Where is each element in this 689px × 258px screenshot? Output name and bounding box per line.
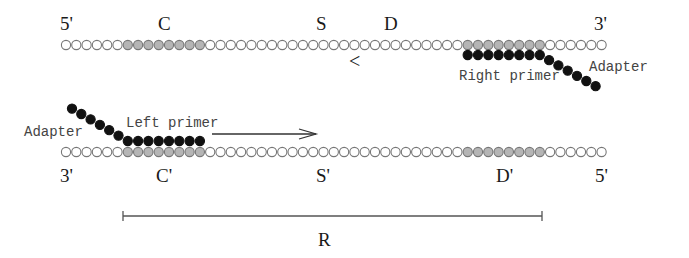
base	[309, 147, 318, 156]
base	[216, 147, 225, 156]
base	[432, 40, 441, 49]
primer-base	[154, 136, 163, 145]
base	[329, 40, 338, 49]
shaded-base	[504, 147, 513, 156]
primer-base	[195, 136, 204, 145]
base	[278, 147, 287, 156]
base	[566, 147, 575, 156]
right-adapter-label: Adapter	[589, 59, 648, 75]
base	[226, 40, 235, 49]
left-adapter-label: Adapter	[24, 124, 83, 140]
base	[278, 40, 287, 49]
base	[226, 147, 235, 156]
base	[267, 40, 276, 49]
base	[267, 147, 276, 156]
bottom-strand-3prime-label: 3'	[60, 165, 73, 186]
shaded-base	[175, 40, 184, 49]
base	[113, 147, 122, 156]
base	[206, 40, 215, 49]
shaded-base	[164, 147, 173, 156]
base	[82, 40, 91, 49]
bottom-strand	[61, 147, 606, 156]
base	[216, 40, 225, 49]
base	[247, 40, 256, 49]
base	[247, 147, 256, 156]
primer-diagram: 5' C S D 3' < Right primer Adapter Left …	[0, 0, 689, 258]
primer-base	[185, 136, 194, 145]
primer-base	[175, 136, 184, 145]
base	[422, 147, 431, 156]
adapter-base	[67, 104, 76, 113]
reverse-direction-marker: <	[349, 50, 360, 72]
adapter-base	[582, 76, 591, 85]
base	[82, 147, 91, 156]
shaded-base	[154, 147, 163, 156]
base	[61, 147, 70, 156]
shaded-base	[515, 147, 524, 156]
base	[443, 147, 452, 156]
primer-base	[494, 50, 503, 59]
base	[237, 40, 246, 49]
adapter-base	[572, 71, 581, 80]
base	[546, 147, 555, 156]
base	[432, 147, 441, 156]
shaded-base	[164, 40, 173, 49]
region-d-label: D	[384, 13, 398, 34]
base	[92, 147, 101, 156]
region-s-prime-label: S'	[316, 165, 330, 186]
base	[350, 40, 359, 49]
shaded-base	[463, 147, 472, 156]
base	[556, 40, 565, 49]
base	[381, 40, 390, 49]
shaded-base	[504, 40, 513, 49]
top-strand-5prime-label: 5'	[60, 13, 73, 34]
base	[546, 40, 555, 49]
base	[288, 40, 297, 49]
base	[412, 147, 421, 156]
base	[597, 40, 606, 49]
region-c-label: C	[158, 13, 171, 34]
range-bar	[123, 211, 542, 221]
base	[319, 40, 328, 49]
region-c-prime-label: C'	[156, 165, 172, 186]
base	[443, 40, 452, 49]
base	[360, 147, 369, 156]
primer-base	[525, 50, 534, 59]
base	[72, 40, 81, 49]
primer-base	[535, 50, 544, 59]
base	[576, 40, 585, 49]
right-primer-label: Right primer	[459, 68, 560, 84]
base	[453, 147, 462, 156]
base	[92, 40, 101, 49]
shaded-base	[123, 147, 132, 156]
shaded-base	[185, 40, 194, 49]
base	[103, 40, 112, 49]
primer-base	[463, 50, 472, 59]
base	[401, 147, 410, 156]
region-d-prime-label: D'	[496, 165, 513, 186]
base	[381, 147, 390, 156]
primer-base	[123, 136, 132, 145]
primer-base	[484, 50, 493, 59]
base	[370, 40, 379, 49]
base	[597, 147, 606, 156]
region-s-label: S	[316, 13, 327, 34]
base	[401, 40, 410, 49]
base	[391, 40, 400, 49]
shaded-base	[195, 40, 204, 49]
shaded-base	[473, 40, 482, 49]
base	[206, 147, 215, 156]
left-primer-label: Left primer	[126, 115, 218, 131]
shaded-base	[463, 40, 472, 49]
adapter-base	[114, 131, 123, 140]
primer-base	[515, 50, 524, 59]
shaded-base	[154, 40, 163, 49]
base	[453, 40, 462, 49]
shaded-base	[134, 40, 143, 49]
base	[257, 147, 266, 156]
shaded-base	[175, 147, 184, 156]
base	[587, 40, 596, 49]
base	[556, 147, 565, 156]
primer-base	[134, 136, 143, 145]
adapter-base	[563, 66, 572, 75]
